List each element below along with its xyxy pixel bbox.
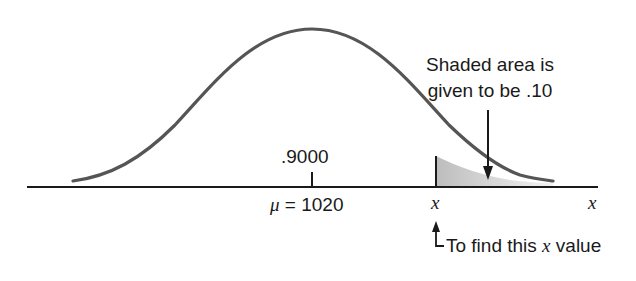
find-x-var: x <box>542 235 550 256</box>
find-x-annotation: To find this x value <box>446 236 601 255</box>
shaded-area-annotation: Shaded area is given to be .10 <box>418 52 562 104</box>
find-x-suffix: value <box>551 235 602 256</box>
x-marker-label: x <box>431 193 439 212</box>
mean-label: μ = 1020 <box>270 195 343 214</box>
x-axis-label: x <box>588 193 596 212</box>
shaded-note-line1: Shaded area is <box>418 52 562 78</box>
shaded-note-line2: given to be .10 <box>418 78 562 104</box>
mean-value: = 1020 <box>280 194 344 215</box>
mu-symbol: μ <box>270 194 280 215</box>
find-x-arrow-shaft <box>436 230 444 246</box>
find-x-prefix: To find this <box>446 235 542 256</box>
normal-distribution-diagram: .9000 μ = 1020 x x Shaded area is given … <box>0 0 636 281</box>
center-area-label: .9000 <box>281 147 329 166</box>
